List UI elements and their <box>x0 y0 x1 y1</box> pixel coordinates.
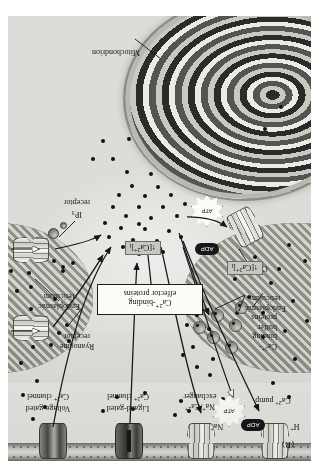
label-ryanodine-line1: Ryanodine <box>39 342 115 352</box>
cell-diagram-canvas: ADP ATP ADP ATP <box>8 16 311 461</box>
arrow-ryr-to-cytosol <box>53 255 103 327</box>
arrow-ip3r-to-cytosol <box>55 235 101 249</box>
label-ryanodine-line2: receptor <box>39 332 115 342</box>
up-arrow-glyph: ↑ <box>254 263 258 272</box>
figure-page: ADP ATP ADP ATP <box>0 0 319 469</box>
label-ip3-receptor: IP3 receptor <box>49 198 105 219</box>
er-left-line2: reticulum <box>233 294 297 304</box>
vgcc-line1: Voltage-gated <box>11 404 85 414</box>
buffer-line2: binding <box>221 332 277 342</box>
label-ip3-line2: receptor <box>49 198 105 208</box>
vgcc-line2: Ca2+ channel <box>11 392 85 404</box>
arrow-cytosol-to-er-pump <box>187 217 227 227</box>
effector-line1: Ca2+-binding <box>104 298 196 311</box>
leader-ip3 <box>59 221 75 237</box>
er-left-line1: Endoplasmic <box>233 304 297 314</box>
up-arrow-glyph: ↑ <box>152 243 156 252</box>
label-er-right: Endoplasmic reticulum <box>27 292 91 311</box>
label-voltage-gated-channel: Voltage-gated Ca2+ channel <box>11 392 85 413</box>
label-effector-proteins-box: Ca2+-binding effector proteins <box>97 284 203 315</box>
effector-line2: effector proteins <box>104 288 196 298</box>
label-pm-calcium-pump: Ca2+ pump <box>241 396 305 408</box>
buffer-line3: buffer <box>221 323 277 333</box>
label-ryanodine-receptor: Ryanodine receptor <box>39 332 115 351</box>
label-er-left: Endoplasmic reticulum <box>233 294 297 313</box>
label-ligand-gated-channel: Ligand-gated Ca2+ channel <box>93 392 163 413</box>
label-na-ca-exchanger: Na+/Ca2+ exchanger <box>167 392 233 413</box>
lgcc-line1: Ligand-gated <box>93 404 163 414</box>
label-mitochondrion: Mitochondrion <box>71 48 161 58</box>
label-buffer-proteins: Ca2+- binding buffer proteins <box>221 313 277 353</box>
rotated-figure-canvas: ADP ATP ADP ATP <box>0 0 319 469</box>
label-ion-h: H+ <box>283 422 307 434</box>
er-right-line2: reticulum <box>27 292 91 302</box>
label-ion-na: Na+ <box>205 422 229 434</box>
label-ip3-line1: IP3 <box>49 208 105 220</box>
exchanger-line1: Na+/Ca2+ <box>167 402 233 414</box>
panel-label: (B) <box>282 440 294 450</box>
buffer-line1: Ca2+- <box>221 342 277 354</box>
er-right-line1: Endoplasmic <box>27 302 91 312</box>
indicator-calcium-increase-right: ↑[Ca2+]i <box>227 261 263 275</box>
indicator-calcium-increase-left: ↑[Ca2+]i <box>125 241 161 255</box>
lgcc-line2: Ca2+ channel <box>93 392 163 404</box>
exchanger-line2: exchanger <box>167 392 233 402</box>
buffer-line4: proteins <box>221 313 277 323</box>
